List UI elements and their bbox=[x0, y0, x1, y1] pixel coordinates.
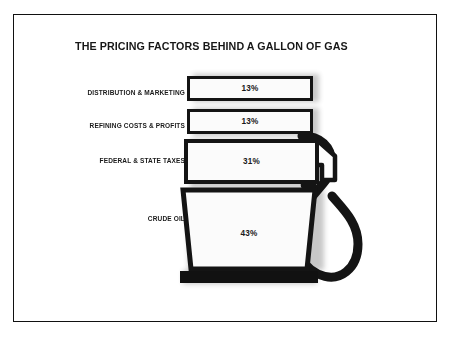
gas-pump-illustration: DISTRIBUTION & MARKETING 13% REFINING CO… bbox=[0, 0, 457, 340]
segment-value-distribution-marketing: 13% bbox=[242, 84, 259, 93]
infographic-page: THE PRICING FACTORS BEHIND A GALLON OF G… bbox=[0, 0, 457, 340]
segment-value-refining-costs-profits: 13% bbox=[242, 117, 259, 126]
segment-bar-refining-costs-profits: 13% bbox=[187, 109, 313, 134]
segment-bar-distribution-marketing: 13% bbox=[187, 76, 313, 101]
pump-base-bar bbox=[180, 271, 318, 283]
segment-label-crude-oil: CRUDE OIL bbox=[70, 215, 185, 223]
segment-bar-crude-oil: 43% bbox=[180, 187, 318, 272]
segment-label-federal-state-taxes: FEDERAL & STATE TAXES bbox=[70, 157, 185, 165]
segment-value-federal-state-taxes: 31% bbox=[243, 157, 260, 166]
segment-label-refining-costs-profits: REFINING COSTS & PROFITS bbox=[70, 122, 185, 130]
segment-value-crude-oil: 43% bbox=[180, 229, 318, 238]
segment-label-distribution-marketing: DISTRIBUTION & MARKETING bbox=[70, 89, 185, 97]
segment-bar-federal-state-taxes: 31% bbox=[184, 139, 319, 184]
